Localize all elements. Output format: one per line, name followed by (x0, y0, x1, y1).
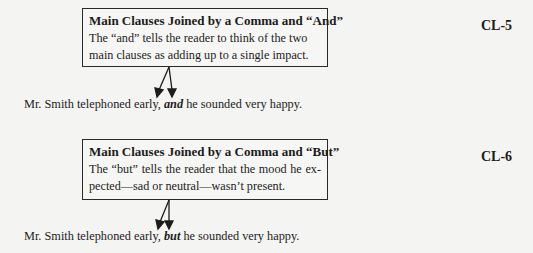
arrow-icon-cl5 (155, 67, 176, 97)
pointer-arrows (0, 0, 533, 253)
arrow-icon-cl6 (156, 200, 173, 229)
